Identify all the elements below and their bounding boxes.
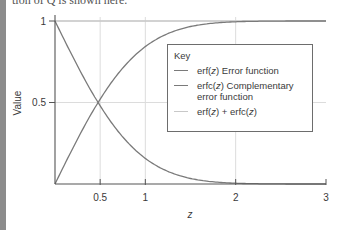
y-tick-label: 0.5 — [32, 97, 46, 108]
legend-title: Key — [174, 50, 306, 61]
x-tick-label: 0.5 — [93, 192, 107, 203]
legend-entry: erf(z) Error function — [174, 65, 306, 76]
x-tick-label: 2 — [233, 192, 239, 203]
legend-swatch-line — [174, 111, 188, 112]
chart-legend: Key erf(z) Error functionerfc(z) Complem… — [167, 44, 313, 132]
x-axis-title: z — [187, 209, 193, 220]
legend-label: erfc(z) Complementary error function — [197, 80, 294, 102]
legend-label: erf(z) + erfc(z) — [197, 106, 257, 117]
y-tick-label: 1 — [40, 16, 46, 27]
x-tick-label: 1 — [143, 192, 149, 203]
legend-label: erf(z) Error function — [197, 65, 279, 76]
legend-swatch-line — [174, 85, 188, 86]
x-tick-label: 3 — [323, 192, 329, 203]
legend-entry: erfc(z) Complementary error function — [174, 80, 306, 102]
legend-swatch-line — [174, 70, 188, 71]
legend-entry: erf(z) + erfc(z) — [174, 106, 306, 117]
y-axis-title: Value — [12, 90, 23, 115]
